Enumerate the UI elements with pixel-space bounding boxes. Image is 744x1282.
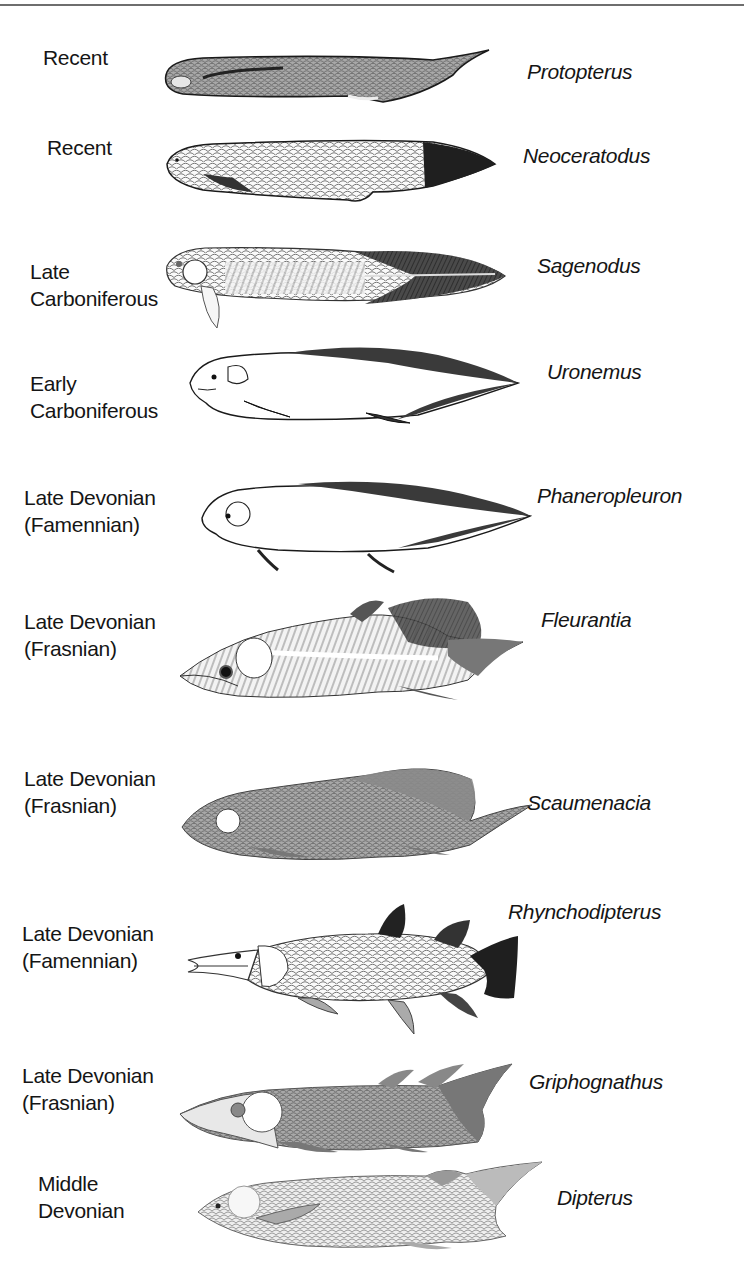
row-phaneropleuron: Late Devonian (Famennian) Phaneropleuron [0,478,744,573]
taxon-label: Sagenodus [537,252,641,279]
era-label: Late Carboniferous [30,258,158,312]
row-fleurantia: Late Devonian (Frasnian) Fleurantia [0,592,744,727]
row-rhynchodipterus: Late Devonian (Famennian) Rhynchodipteru… [0,898,744,1028]
taxon-label: Protopterus [527,58,632,85]
era-label: Early Carboniferous [30,370,158,424]
row-scaumenacia: Late Devonian (Frasnian) Scaumenacia [0,765,744,870]
era-label: Late Devonian (Frasnian) [24,765,156,819]
fish-illustration-dipterus [196,1166,546,1251]
taxon-label: Neoceratodus [523,142,650,169]
taxon-label: Scaumenacia [527,789,651,816]
fish-illustration-phaneropleuron [198,478,533,573]
era-label: Recent [43,44,108,71]
fish-illustration-scaumenacia [180,765,540,865]
era-label: Middle Devonian [38,1170,124,1224]
row-neoceratodus: Recent Neoceratodus [0,128,744,203]
taxon-label: Phaneropleuron [537,482,682,509]
fish-illustration-protopterus [163,50,493,105]
row-protopterus: Recent Protopterus [0,40,744,110]
taxon-label: Dipterus [557,1184,633,1211]
fish-illustration-griphognathus [178,1062,528,1162]
taxon-label: Fleurantia [541,606,631,633]
top-border-rule [0,4,744,6]
fish-illustration-fleurantia-body [178,596,528,726]
fish-illustration-neoceratodus [163,134,498,204]
row-uronemus: Early Carboniferous Uronemus [0,342,744,432]
era-label: Late Devonian (Famennian) [24,484,156,538]
row-sagenodus: Late Carboniferous Sagenodus [0,240,744,330]
row-dipterus: Middle Devonian Dipterus [0,1162,744,1277]
era-label: Recent [47,134,112,161]
era-label: Late Devonian (Frasnian) [22,1062,154,1116]
fish-illustration-uronemus [188,345,523,430]
row-griphognathus: Late Devonian (Frasnian) Griphognathus [0,1062,744,1162]
taxon-label: Griphognathus [529,1068,663,1095]
fish-illustration-sagenodus [165,246,510,331]
taxon-label: Uronemus [547,358,641,385]
taxon-label: Rhynchodipterus [508,898,661,925]
fish-illustration-rhynchodipterus-body [188,900,528,1030]
era-label: Late Devonian (Famennian) [22,920,154,974]
